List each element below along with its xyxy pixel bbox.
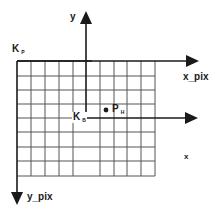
x-pix-arrowhead	[186, 55, 199, 67]
k-b-label: KB	[72, 112, 87, 123]
x-arrowhead	[185, 112, 198, 124]
y-axis-label: y	[70, 12, 76, 22]
y-pix-label: y_pix	[27, 192, 53, 202]
x-pix-label: x_pix	[183, 72, 209, 82]
point-p-h	[104, 108, 109, 113]
x-axis-label: x	[184, 153, 188, 161]
y-arrowhead	[80, 11, 92, 24]
k-p-label: KP	[12, 44, 25, 55]
y-pix-arrowhead	[11, 192, 23, 205]
p-h-label: PH	[112, 104, 124, 115]
coordinate-diagram	[0, 0, 221, 217]
axes	[17, 22, 190, 198]
